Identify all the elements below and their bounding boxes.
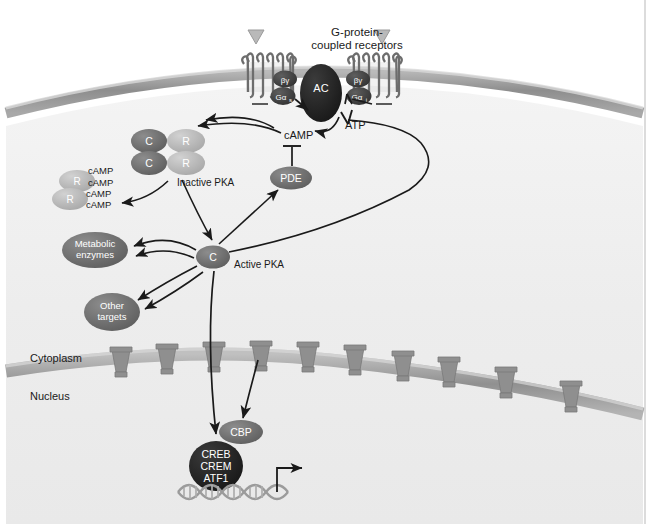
free-r-subunit-1-label: R [73, 176, 80, 187]
other-targets-label-line2: targets [97, 311, 126, 322]
camp-bound-label-1: cAMP [88, 165, 113, 176]
g-protein-left-alpha-subscript: s [289, 97, 292, 103]
creb-label: CREB [201, 448, 230, 460]
g-protein-left-alpha-label: Gα [276, 93, 287, 102]
metabolic-enzymes-label-line2: enzymes [76, 249, 114, 260]
g-protein-left-betagamma-label: βγ [281, 76, 290, 85]
figure-canvas: G-protein- coupled receptors βγ Gα s βγ … [0, 0, 649, 524]
phosphodiesterase-label: PDE [280, 172, 302, 184]
g-protein-right-alpha-subscript: i [366, 97, 367, 103]
pathway-diagram: G-protein- coupled receptors βγ Gα s βγ … [0, 0, 649, 524]
cytoplasm-label: Cytoplasm [30, 352, 82, 364]
camp-bound-label-4: cAMP [86, 199, 111, 210]
adenylyl-cyclase[interactable]: AC [300, 64, 342, 122]
camp-bound-label-3: cAMP [86, 188, 111, 199]
nucleus-label: Nucleus [30, 390, 70, 402]
camp-bound-label-2: cAMP [88, 177, 113, 188]
pka-c-subunit-1-label: C [145, 135, 153, 147]
active-pka-c-label: C [209, 251, 217, 263]
other-targets[interactable]: Other targets [84, 293, 140, 331]
g-protein-right-betagamma-label: βγ [354, 76, 363, 85]
crem-label: CREM [201, 460, 232, 472]
phosphodiesterase[interactable]: PDE [270, 167, 312, 190]
creb-crem-atf1[interactable]: CREB CREM ATF1 [189, 441, 243, 491]
other-targets-label-line1: Other [100, 300, 124, 311]
cbp-coactivator[interactable]: CBP [219, 420, 263, 444]
free-r-subunit-2-label: R [66, 194, 73, 205]
pka-r-subunit-1-label: R [182, 135, 190, 147]
camp-label: cAMP [284, 129, 313, 141]
adenylyl-cyclase-label: AC [313, 82, 328, 94]
atf1-label: ATF1 [204, 472, 229, 484]
metabolic-enzymes[interactable]: Metabolic enzymes [62, 232, 128, 268]
receptor-title-line2: coupled receptors [311, 39, 403, 51]
receptor-title-line1: G-protein- [331, 26, 383, 38]
pka-r-subunit-2-label: R [182, 157, 190, 169]
metabolic-enzymes-label-line1: Metabolic [75, 238, 116, 249]
active-pka-label: Active PKA [234, 259, 284, 270]
cbp-label: CBP [230, 426, 252, 438]
pka-c-subunit-2-label: C [145, 157, 153, 169]
